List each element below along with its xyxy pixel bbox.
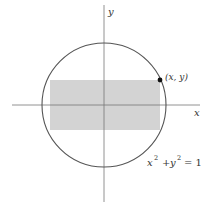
x-axis-label: x — [194, 107, 200, 118]
equation-x-exponent: 2 — [154, 154, 158, 162]
point-marker — [158, 78, 163, 83]
equation-equals-one: = 1 — [184, 157, 202, 168]
equation-y-exponent: 2 — [177, 154, 181, 162]
point-label: (x, y) — [165, 72, 188, 82]
equation-y: y — [169, 157, 176, 168]
equation-x: x — [147, 157, 153, 168]
circle-equation: x 2 + y 2 = 1 — [147, 154, 202, 168]
unit-circle-diagram: y x (x, y) x 2 + y 2 = 1 — [0, 0, 210, 210]
y-axis-label: y — [107, 6, 114, 17]
